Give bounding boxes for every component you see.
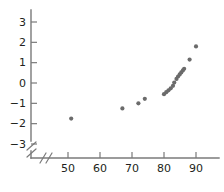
x-tick-label: 90 [189, 162, 203, 175]
x-tick-label: 60 [93, 162, 107, 175]
plot-canvas: 3210−1−2−3 5060708090 [0, 0, 224, 192]
x-tick-label: 70 [125, 162, 139, 175]
y-tick-label: 2 [19, 36, 26, 49]
x-tick-label: 80 [157, 162, 171, 175]
y-tick-label: −3 [10, 138, 26, 151]
data-point [172, 80, 176, 84]
y-tick-label: 3 [19, 16, 26, 29]
y-axis-break-icon-upper [27, 142, 36, 150]
data-point [194, 44, 198, 48]
y-axis-ticks: 3210−1−2−3 [10, 16, 37, 151]
x-tick-label: 50 [61, 162, 75, 175]
data-point [120, 106, 124, 110]
y-tick-label: −2 [10, 117, 26, 130]
x-axis-ticks: 5060708090 [61, 152, 203, 175]
data-point [136, 101, 140, 105]
data-point [188, 58, 192, 62]
y-tick-label: 0 [19, 77, 26, 90]
data-point [182, 67, 186, 71]
axis-lines [31, 10, 219, 158]
data-point [69, 116, 73, 120]
data-point [143, 97, 147, 101]
y-tick-label: −1 [10, 97, 26, 110]
y-tick-label: 1 [19, 56, 26, 69]
data-points-layer [69, 44, 198, 120]
scatter-plot-figure: 3210−1−2−3 5060708090 [0, 0, 224, 192]
